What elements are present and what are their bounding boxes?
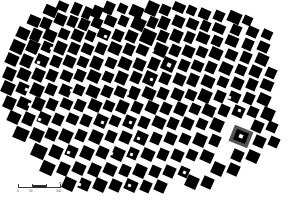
building-footprints-layer — [0, 0, 287, 204]
scale-bar-tick-2 — [46, 184, 47, 188]
figure-ground-map: 0 50 100 m — [0, 0, 287, 204]
scale-bar-segment — [32, 185, 46, 188]
scale-bar-tick-start — [18, 184, 19, 188]
scale-bar: 0 50 100 m — [17, 181, 63, 193]
scale-bar-label-end: 100 — [56, 189, 61, 193]
scale-bar-label-mid: 50 — [29, 189, 33, 193]
scale-bar-unit-label: m — [59, 181, 62, 185]
scale-bar-label-start: 0 — [17, 189, 19, 193]
scale-bar-tick-1 — [32, 184, 33, 188]
